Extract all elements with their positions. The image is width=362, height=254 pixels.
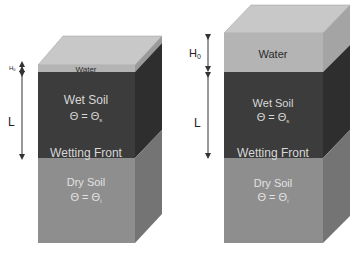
left-soil-column — [38, 36, 162, 243]
left-wet-soil-label: Wet Soil — [64, 93, 108, 107]
left-wetting-front-label: Wetting Front — [50, 146, 122, 160]
right-h0-label: H0 — [189, 47, 201, 60]
left-h0-label: H0 — [9, 65, 16, 72]
right-wetting-front-label: Wetting Front — [237, 146, 309, 160]
right-soil-column — [224, 5, 350, 243]
right-wet-theta-label: Θ = Θs — [257, 111, 290, 124]
right-dry-theta-label: Θ = Θi — [258, 191, 289, 204]
right-wet-soil-label: Wet Soil — [253, 97, 294, 109]
left-dry-soil-label: Dry Soil — [67, 176, 106, 188]
right-water-label: Water — [259, 48, 288, 60]
right-dry-soil-label: Dry Soil — [254, 177, 293, 189]
left-dry-theta-label: Θ = Θi — [71, 191, 102, 204]
left-wet-theta-label: Θ = Θs — [70, 110, 103, 123]
infiltration-diagram: Water H0 L Wet Soil Θ = Θs Wetting Front… — [0, 0, 362, 254]
right-l-label: L — [194, 116, 201, 130]
left-water-label: Water — [75, 65, 96, 74]
left-l-label: L — [8, 115, 15, 129]
